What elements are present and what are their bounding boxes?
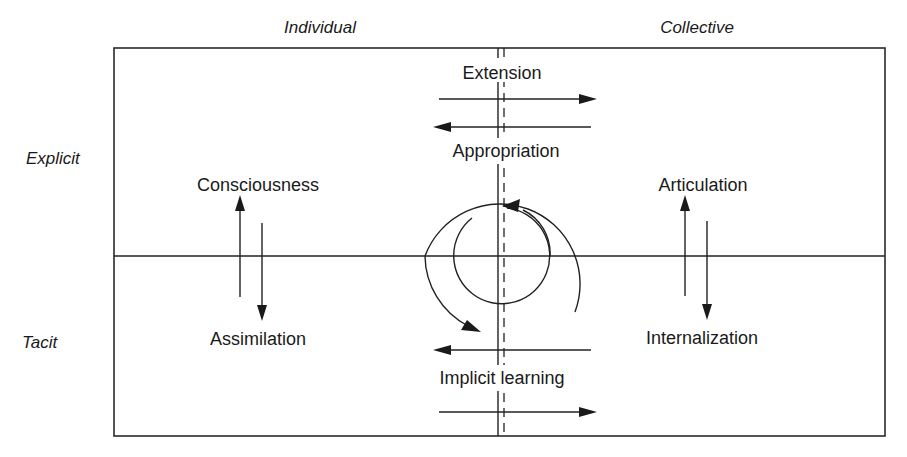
consciousness-arrow [235, 195, 245, 297]
label-consciousness: Consciousness [197, 175, 319, 195]
label-internalization: Internalization [646, 328, 758, 348]
appropriation-arrow [433, 122, 591, 132]
spiral-icon [425, 199, 580, 332]
internalization-arrow [702, 221, 712, 320]
implicit-learning-arrow-left [433, 345, 591, 355]
extension-arrow [439, 94, 597, 104]
knowledge-dynamics-diagram: Individual Collective Explicit Tacit Ext… [0, 0, 907, 457]
label-implicit-learning: Implicit learning [439, 368, 564, 388]
row-header-explicit: Explicit [26, 149, 81, 168]
label-assimilation: Assimilation [210, 329, 306, 349]
implicit-learning-arrow-right [439, 407, 597, 417]
row-header-tacit: Tacit [22, 333, 59, 352]
column-header-collective: Collective [660, 18, 734, 37]
label-articulation: Articulation [658, 175, 747, 195]
label-extension: Extension [462, 63, 541, 83]
assimilation-arrow [257, 223, 267, 321]
label-appropriation: Appropriation [452, 141, 559, 161]
articulation-arrow [680, 195, 690, 296]
column-header-individual: Individual [284, 18, 357, 37]
